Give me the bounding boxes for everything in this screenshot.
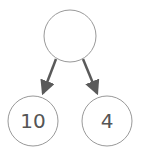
node-right: 4 — [82, 96, 132, 146]
edge-root-to-left-arrow — [43, 59, 56, 93]
node-left-label: 10 — [20, 109, 45, 133]
node-left: 10 — [8, 96, 58, 146]
edge-root-to-right-arrow — [83, 59, 97, 93]
tree-diagram: 10 4 — [0, 0, 144, 155]
node-root — [44, 10, 96, 62]
node-right-label: 4 — [101, 109, 114, 133]
